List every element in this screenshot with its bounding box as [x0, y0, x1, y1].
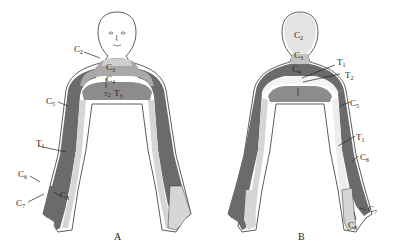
caption-a: A	[114, 231, 122, 242]
panel-b: C2 C3 C4 T1 T2 C5 T1 C6 C7 C8 B	[228, 12, 377, 242]
label-c7-a: C7	[16, 198, 25, 209]
label-t1-a: T1	[36, 138, 45, 149]
band-t3-b	[268, 86, 332, 102]
hand-right-a	[168, 186, 191, 230]
label-c6-a: C6	[18, 169, 27, 180]
label-t2-b: T2	[345, 70, 354, 81]
label-t1-upper-b: T1	[337, 57, 346, 68]
label-c2-a: C2	[74, 44, 83, 55]
caption-b: B	[298, 231, 305, 242]
label-c5-a: C5	[46, 96, 55, 107]
label-c5-b: C5	[350, 98, 359, 109]
label-c6-b: C6	[360, 152, 369, 163]
label-t2-a: T2	[104, 91, 111, 98]
panel-a: C2 C3 C4 T2 T3 C5 T1 C6 C7 C8 A	[16, 12, 191, 242]
label-c7-b: C7	[368, 204, 377, 215]
label-t1-arm-b: T1	[356, 132, 365, 143]
dermatome-diagram: C2 C3 C4 T2 T3 C5 T1 C6 C7 C8 A	[0, 0, 394, 250]
hand-left-light-b	[244, 190, 256, 230]
